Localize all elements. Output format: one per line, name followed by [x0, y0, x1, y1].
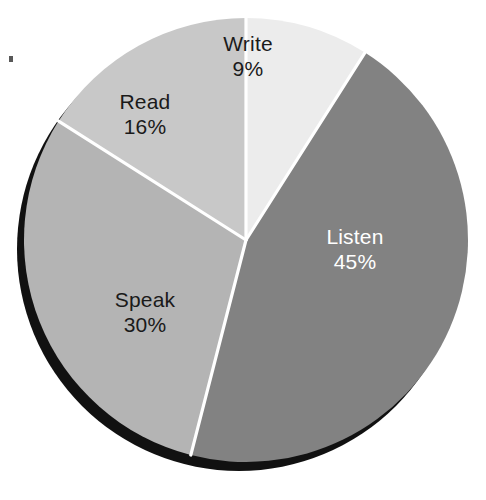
pie-label-listen-value: 45% — [300, 250, 410, 275]
pie-label-write-name: Write — [193, 32, 303, 57]
scan-artifact-speck — [9, 56, 13, 62]
pie-label-read-value: 16% — [90, 115, 200, 140]
pie-chart-figure: Write 9% Listen 45% Speak 30% Read 16% — [0, 0, 486, 500]
pie-label-write: Write 9% — [193, 32, 303, 82]
pie-label-speak: Speak 30% — [90, 288, 200, 338]
pie-label-listen-name: Listen — [300, 225, 410, 250]
pie-label-speak-name: Speak — [90, 288, 200, 313]
pie-label-listen: Listen 45% — [300, 225, 410, 275]
pie-label-read: Read 16% — [90, 90, 200, 140]
pie-label-read-name: Read — [90, 90, 200, 115]
pie-label-write-value: 9% — [193, 57, 303, 82]
pie-label-speak-value: 30% — [90, 313, 200, 338]
